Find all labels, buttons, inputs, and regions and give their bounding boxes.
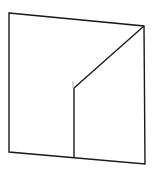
line-diagram [0, 0, 154, 171]
outer-quadrilateral [9, 13, 145, 164]
diagonal-line [74, 26, 144, 88]
